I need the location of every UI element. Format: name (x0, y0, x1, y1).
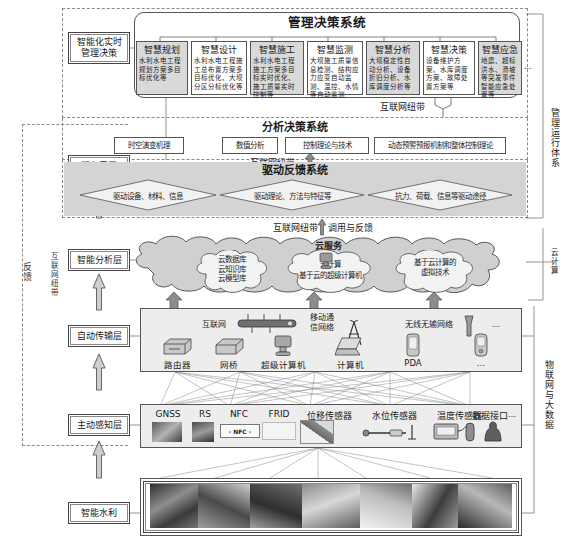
analysis-item[interactable]: 数值分析 (222, 137, 278, 154)
supercomputer-glyph-icon (318, 252, 334, 270)
label-internet: 互联网 (192, 318, 236, 329)
sensor-water-level-icon (362, 422, 420, 442)
management-module-title: 智慧监测 (308, 42, 362, 57)
smart-water-photo (302, 484, 360, 528)
sensor-gnss-label: GNSS (146, 409, 190, 419)
management-module-desc: 水利水电工程施工方案多目标实时优化、施工质量实时控制等 (251, 57, 303, 100)
analysis-item[interactable]: 控制理论与技术 (285, 137, 369, 154)
sensor-displacement-thumb (300, 420, 334, 444)
management-modules-ellipsis: … (524, 62, 536, 71)
management-module[interactable]: 智慧决策 设备维护方案、水库调度方案、故障处置方案等 (423, 41, 475, 95)
smart-water-photo (198, 484, 250, 528)
management-decision-title: 管理决策系统 (134, 15, 520, 31)
drive-feedback-title: 驱动反馈系统 (64, 163, 526, 177)
cloud-bubble-virtualization-label: 基于云计算的 虚拟技术 (390, 258, 480, 278)
device-computer-icon (334, 336, 366, 358)
right-label-cloud-computing: 云计算 (546, 248, 558, 275)
label-wireless-network: 无线无输网络 (396, 318, 462, 329)
device-router-icon (160, 336, 194, 358)
device-bridge-label: 网桥 (208, 358, 250, 370)
analysis-item[interactable]: 时空演变机理 (114, 137, 184, 154)
smart-water-photo (412, 484, 458, 528)
device-ellipsis-label: … (468, 358, 494, 368)
management-module-title: 智慧应急 (479, 42, 521, 57)
device-mobile-phone-icon (472, 332, 490, 358)
sensor-temperature-icon (432, 420, 478, 444)
sensing-transmission-mesh (140, 372, 522, 406)
management-module-desc: 大坝施工质量信息检测、结构应力应变自动监测、温控、水情等自动监测 (308, 57, 362, 100)
management-module-title: 智慧分析 (367, 42, 419, 57)
drive-item-label: 驱动理论、方法与特征等 (222, 190, 362, 201)
sensor-rs-label: RS (192, 409, 218, 419)
management-module[interactable]: 智慧规划 水利水电工程规划方案多目标优化等 (136, 41, 188, 95)
device-pda-icon (404, 332, 422, 358)
smart-water-photo (458, 484, 512, 528)
sensor-frid-label: FRID (262, 409, 296, 419)
sensor-nfc-chip-text: ‹ NFC › (229, 428, 252, 435)
management-module[interactable]: 智慧分析 大坝稳定性自动分析、设备折旧分析、水库调度分析等 (366, 41, 420, 95)
band-top-brace-icon (432, 95, 454, 119)
management-module[interactable]: 智慧施工 水利水电工程施工方案多目标实时优化、施工质量实时控制等 (250, 41, 304, 95)
management-module-desc: 水利水电工程规划方案多目标优化等 (137, 57, 187, 83)
management-module-desc: 大坝稳定性自动分析、设备折旧分析、水库调度分析等 (367, 57, 419, 91)
smart-water-photo (360, 484, 412, 528)
management-module[interactable]: 智慧监测 大坝施工质量信息检测、结构应力应变自动监测、温控、水情等自动监测 (307, 41, 363, 95)
management-module[interactable]: 智慧应急 地震、超标洪水、滑坡等突发事件智能应急处置等 (478, 41, 522, 95)
device-supercomputer-label: 超级计算机 (252, 358, 314, 370)
internet-backbone-icon (236, 312, 298, 334)
management-module-desc: 地震、超标洪水、滑坡等突发事件智能应急处置等 (479, 57, 521, 100)
right-label-iot-bigdata: 物联网与大数据 (540, 360, 554, 430)
device-bridge-icon (212, 336, 246, 358)
sensor-water-level-label: 水位传感器 (362, 409, 426, 422)
sensor-gnss-thumb (152, 422, 182, 442)
device-computer-label: 计算机 (324, 358, 376, 370)
analysis-decision-title: 分析决策系统 (62, 120, 528, 134)
drive-item-label: 抗力、荷载、信息等驱动途径 (370, 190, 510, 201)
sensor-nfc-label: NFC (220, 409, 258, 419)
management-module-title: 智慧施工 (251, 42, 303, 57)
band-label-cloud-left: 互联网纽带 (258, 223, 318, 234)
device-pda-label: PDA (390, 358, 436, 368)
sensor-nfc-chip: ‹ NFC › (220, 424, 260, 438)
sensor-data-interface-icon (482, 420, 504, 444)
management-module-desc: 设备维护方案、水库调度方案、故障处置方案等 (424, 57, 474, 91)
management-module-title: 智慧规划 (137, 42, 187, 57)
analysis-item[interactable]: 动态预警预报机制和整体控制理论 (374, 137, 506, 154)
band-label-top: 互联网纽带 (372, 102, 432, 113)
device-supercomputer-icon (272, 334, 294, 358)
sensor-rs-thumb (192, 422, 214, 442)
sensor-ellipsis-label: … (508, 410, 522, 419)
smart-water-photo (150, 484, 198, 528)
cloud-bubble-databases-label: 云数据库 云知识库 云模型库 (192, 255, 272, 284)
management-module-title: 智慧决策 (424, 42, 474, 57)
management-module-desc: 水利水电工程施工总布置方案多目标优化、大坝分区分标优化等 (192, 57, 246, 91)
label-transmission-ellipsis: … (486, 320, 506, 329)
smart-water-photo (250, 484, 302, 528)
drive-item-label: 驱动设备、材料、信息 (82, 190, 214, 201)
management-module[interactable]: 智慧设计 水利水电工程施工总布置方案多目标优化、大坝分区分标优化等 (191, 41, 247, 95)
device-router-label: 路由器 (152, 358, 202, 370)
smartwater-sensing-mesh (140, 448, 522, 478)
management-module-title: 智慧设计 (192, 42, 246, 57)
right-label-management-system: 管理运行体系 (546, 108, 560, 168)
sensor-frid-thumb (262, 422, 296, 440)
band-label-cloud-right: 调用与反馈 (328, 223, 390, 234)
label-mobile-network: 移动通 信网络 (300, 313, 344, 333)
